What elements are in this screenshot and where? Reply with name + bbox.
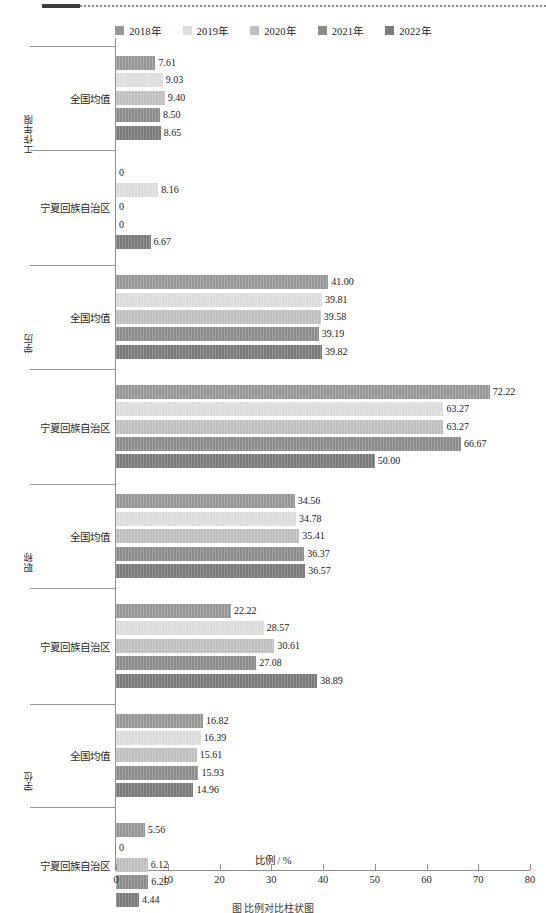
bar-value-label: 66.67 [464,438,487,449]
bar-texture [116,564,305,578]
bar-texture [116,402,443,416]
bar-value-label: 0 [119,201,124,212]
bar-value-label: 39.58 [324,311,347,322]
bar[interactable] [116,547,304,561]
bar-value-label: 34.56 [298,495,321,506]
bar-value-label: 0 [119,842,124,853]
bar-texture [116,748,197,762]
bar-value-label: 63.27 [446,403,469,414]
bar[interactable] [116,564,305,578]
bar[interactable] [116,183,158,197]
bar-texture [116,454,375,468]
bar-texture [116,823,145,837]
group-label: 职称 [24,552,38,572]
bar[interactable] [116,783,193,797]
bar[interactable] [116,766,198,780]
bar-value-label: 38.89 [320,675,343,686]
group-label: 学历 [24,333,38,353]
bar[interactable] [116,639,274,653]
bar[interactable] [116,512,296,526]
bar-texture [116,512,296,526]
legend-item-2020年[interactable]: 2020年 [250,23,296,38]
bar-texture [116,494,295,508]
rule-dotted-segment [80,5,546,7]
bar-value-label: 50.00 [378,455,401,466]
bar[interactable] [116,327,319,341]
bar-texture [116,345,322,359]
bar-value-label: 9.40 [168,92,186,103]
bar-value-label: 28.57 [267,622,290,633]
bar-texture [116,91,165,105]
legend-swatch-icon [183,26,192,35]
bar-value-label: 27.08 [259,657,282,668]
x-axis-tick-label: 20 [205,874,235,885]
bar-texture [116,547,304,561]
bar[interactable] [116,126,161,140]
category-label: 宁夏回族自治区 [0,639,110,654]
bar-value-label: 0 [119,219,124,230]
x-axis-tick-label: 40 [308,874,338,885]
bar[interactable] [116,108,160,122]
bar[interactable] [116,529,299,543]
bar[interactable] [116,621,264,635]
bar-value-label: 15.61 [200,749,223,760]
category-label: 全国均值 [0,748,110,763]
bar-texture [116,604,231,618]
bar[interactable] [116,437,461,451]
bar-value-label: 8.16 [161,184,179,195]
legend-label: 2022年 [399,23,431,38]
bar-value-label: 36.57 [308,565,331,576]
bar-texture [116,108,160,122]
bar-texture [116,327,319,341]
group-separator [30,265,116,266]
bar[interactable] [116,714,203,728]
group-separator [30,484,116,485]
x-axis-tick-label: 60 [412,874,442,885]
bar-texture [116,310,321,324]
bar[interactable] [116,402,443,416]
bar[interactable] [116,235,151,249]
legend-item-2019年[interactable]: 2019年 [183,23,229,38]
legend-item-2022年[interactable]: 2022年 [385,23,431,38]
bar-texture [116,656,256,670]
bar-value-label: 30.61 [277,640,300,651]
bar[interactable] [116,345,322,359]
bar-value-label: 8.65 [164,127,182,138]
bar-value-label: 39.19 [322,328,345,339]
category-separator [30,588,116,589]
bar-texture [116,621,264,635]
bar-texture [116,235,151,249]
bar[interactable] [116,73,163,87]
x-axis-tick-label: 0 [101,874,131,885]
bar[interactable] [116,674,317,688]
legend-swatch-icon [318,26,327,35]
bar[interactable] [116,731,201,745]
bar-texture [116,731,201,745]
bar[interactable] [116,494,295,508]
chart-legend: 2018年2019年2020年2021年2022年 [0,22,546,38]
bar-value-label: 6.67 [154,236,172,247]
bar[interactable] [116,604,231,618]
bar[interactable] [116,656,256,670]
bar[interactable] [116,748,197,762]
legend-label: 2019年 [197,23,229,38]
bar-texture [116,766,198,780]
bar-texture [116,674,317,688]
legend-label: 2021年 [332,23,364,38]
legend-item-2018年[interactable]: 2018年 [115,23,161,38]
category-label: 宁夏回族自治区 [0,200,110,215]
bar[interactable] [116,310,321,324]
bar[interactable] [116,56,155,70]
bar-value-label: 7.61 [158,57,176,68]
bar[interactable] [116,420,443,434]
bar[interactable] [116,91,165,105]
legend-item-2021年[interactable]: 2021年 [318,23,364,38]
bar[interactable] [116,823,145,837]
bar[interactable] [116,454,375,468]
bar[interactable] [116,293,322,307]
bar[interactable] [116,385,490,399]
category-label: 全国均值 [0,91,110,106]
bar-value-label: 72.22 [493,386,516,397]
chart-plot-area: 全国均值7.619.039.408.508.65工作年限宁夏回族自治区08.16… [0,38,546,873]
bar[interactable] [116,275,328,289]
